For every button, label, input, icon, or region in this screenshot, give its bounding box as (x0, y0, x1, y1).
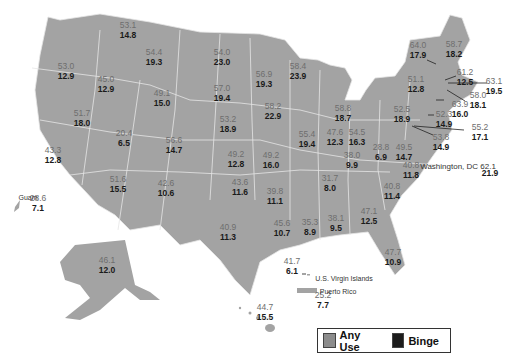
region-label-south-carolina: 40.811.4 (384, 181, 401, 201)
region-label-vermont: 64.017.9 (410, 40, 427, 60)
region-label-maryland: 53.814.9 (433, 132, 450, 152)
region-label-california: 43.312.8 (45, 145, 62, 165)
region-label-alabama: 38.19.5 (328, 213, 345, 233)
region-label-oregon: 53.012.9 (58, 61, 75, 81)
region-label-north-carolina: 40.811.8 (403, 160, 420, 180)
region-label-hawaii: 44.715.5 (257, 302, 274, 322)
region-label-florida: 47.710.9 (385, 247, 402, 267)
region-label-kansas: 49.212.8 (228, 149, 245, 169)
region-label-oklahoma: 43.611.6 (232, 177, 249, 197)
region-label-maine: 58.718.2 (446, 39, 463, 59)
region-label-arizona: 51.615.5 (110, 174, 127, 194)
usvi-shape (302, 273, 310, 276)
region-label-missouri: 49.216.0 (263, 150, 280, 170)
region-label-virginia: 49.514.7 (396, 142, 413, 162)
region-label-wisconsin: 58.423.9 (290, 61, 307, 81)
region-label-colorado: 56.614.7 (166, 135, 183, 155)
any-use-legend-label: Any Use (340, 329, 382, 353)
region-label-wyoming: 49.115.0 (154, 88, 171, 108)
alaska-shape (60, 240, 160, 320)
region-label-iowa: 58.222.9 (265, 101, 282, 121)
guam-label: Guam (18, 190, 37, 203)
region-label-north-dakota: 54.023.0 (214, 47, 231, 67)
region-label-west-virginia: 28.86.9 (373, 142, 390, 162)
puerto-rico-label: Puerto Rico (320, 284, 357, 297)
region-label-idaho: 45.012.9 (98, 74, 115, 94)
binge-swatch (392, 333, 405, 348)
region-label-mississippi: 35.38.9 (302, 217, 319, 237)
region-label-alaska: 46.112.0 (99, 255, 116, 275)
region-label-kentucky: 38.09.9 (344, 150, 361, 170)
region-label-minnesota: 56.919.3 (256, 69, 273, 89)
region-label-nebraska: 53.218.9 (220, 114, 237, 134)
region-label-rhode-island: 58.018.1 (470, 90, 487, 110)
region-label-nevada: 51.718.0 (74, 108, 91, 128)
region-label-delaware: 55.217.1 (472, 122, 489, 142)
region-label-new-mexico: 42.610.6 (158, 178, 175, 198)
region-label-washington: 53.114.8 (120, 20, 137, 40)
region-label-indiana: 47.612.3 (327, 127, 344, 147)
region-label-louisiana: 45.610.7 (274, 218, 291, 238)
region-label-new-jersey: 52.314.9 (436, 109, 453, 129)
region-label-new-hampshire: 61.212.5 (457, 67, 474, 87)
region-label-tennessee: 31.78.0 (322, 173, 339, 193)
region-label-illinois: 55.419.4 (299, 129, 316, 149)
region-label-utah: 20.46.5 (116, 128, 133, 148)
region-label-ohio: 54.516.3 (349, 127, 366, 147)
binge-legend-label: Binge (408, 335, 439, 347)
region-label-massachusetts: 63.119.5 (486, 76, 503, 96)
region-label-south-dakota: 57.019.4 (214, 83, 231, 103)
dc-label: Washington, DC 62.1 (420, 159, 496, 172)
region-label-texas: 40.911.3 (220, 222, 237, 242)
region-label-michigan: 58.818.7 (335, 103, 352, 123)
usvi-label: U.S. Virgin Islands (315, 271, 372, 284)
any-use-swatch (323, 333, 336, 348)
region-label-connecticut: 63.916.0 (452, 99, 469, 119)
region-label-montana: 54.419.3 (146, 47, 163, 67)
region-label-new-york: 51.112.8 (408, 74, 425, 94)
region-label-arkansas: 39.811.1 (267, 186, 284, 206)
region-label-u-s-virgin-islands: 41.76.1 (284, 256, 301, 276)
legend: Any Use Binge (317, 328, 451, 353)
region-label-georgia: 47.112.5 (361, 206, 378, 226)
region-label-pennsylvania: 52.518.9 (394, 104, 411, 124)
